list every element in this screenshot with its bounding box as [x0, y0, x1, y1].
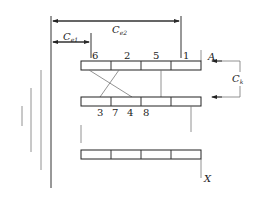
- shift-register-diagram: Ce2 Ce1 6 2 5 1 A Ck: [0, 0, 257, 199]
- ck-label: Ck: [232, 73, 244, 85]
- bottom-bar: [81, 150, 201, 159]
- top-label-0: 6: [92, 50, 98, 61]
- middle-bar-labels: 3 7 4 8: [97, 107, 149, 118]
- middle-label-2: 4: [127, 107, 133, 118]
- ck-dimension: Ck: [212, 61, 244, 97]
- ce1-label: Ce1: [63, 31, 78, 43]
- ce2-label: Ce2: [112, 24, 127, 36]
- top-bar-labels: 6 2 5 1: [92, 50, 189, 61]
- top-label-3: 1: [183, 50, 189, 61]
- middle-bar: [81, 97, 201, 106]
- cross-line-2: [100, 70, 119, 97]
- marker-x: X: [203, 173, 212, 184]
- cross-line-1: [89, 70, 132, 97]
- middle-label-0: 3: [97, 107, 103, 118]
- marker-a: A: [207, 51, 215, 62]
- middle-label-3: 8: [143, 107, 149, 118]
- top-label-2: 5: [153, 50, 159, 61]
- top-bar: [81, 61, 201, 70]
- top-label-1: 2: [124, 50, 130, 61]
- left-guide-lines: [22, 16, 51, 188]
- ce1-dimension: Ce1: [53, 31, 91, 58]
- connections: [89, 70, 161, 97]
- middle-label-1: 7: [112, 107, 118, 118]
